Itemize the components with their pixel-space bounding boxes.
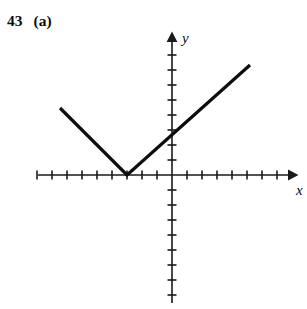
figure-root: 43(a) xyxy=(0,0,307,309)
x-axis-arrowhead-icon xyxy=(288,170,299,181)
y-axis-arrowhead-icon xyxy=(167,32,178,43)
function-curve xyxy=(60,65,250,175)
y-axis xyxy=(167,32,178,304)
x-axis xyxy=(38,170,299,181)
x-axis-label: x xyxy=(296,183,303,198)
absolute-value-graph-line xyxy=(60,65,250,175)
coordinate-plane xyxy=(0,0,307,309)
y-axis-label: y xyxy=(182,31,189,46)
